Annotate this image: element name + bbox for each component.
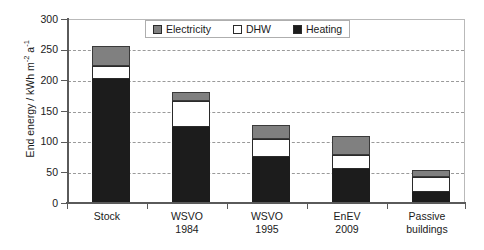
x-category-label-enev-2009: EnEV 2009	[302, 210, 392, 236]
x-category-line-1: Stock	[62, 210, 152, 223]
chart-legend: Electricity DHW Heating	[145, 20, 350, 38]
bar-segment-electricity[interactable]	[412, 170, 450, 177]
legend-swatch-dhw-icon	[233, 25, 242, 34]
bar-wsvo-1995[interactable]	[252, 125, 290, 202]
x-category-line-2: 2009	[302, 223, 392, 236]
y-axis-line	[67, 18, 69, 204]
legend-item-electricity[interactable]: Electricity	[153, 24, 211, 34]
y-tick-label-150: 150	[18, 106, 58, 116]
x-category-line-1: WSVO	[222, 210, 312, 223]
x-category-label-wsvo-1995: WSVO 1995	[222, 210, 312, 236]
x-category-line-2: 1984	[142, 223, 232, 236]
x-category-label-passive-buildings: Passive buildings	[382, 210, 472, 236]
x-axis-line	[66, 202, 466, 204]
x-category-line-1: EnEV	[302, 210, 392, 223]
legend-item-dhw[interactable]: DHW	[233, 24, 271, 34]
bar-segment-electricity[interactable]	[172, 92, 210, 101]
bar-segment-dhw[interactable]	[92, 66, 130, 79]
x-category-label-wsvo-1984: WSVO 1984	[142, 210, 232, 236]
x-category-label-stock: Stock	[62, 210, 152, 223]
legend-label-dhw: DHW	[246, 24, 271, 34]
legend-swatch-electricity-icon	[153, 25, 162, 34]
x-category-line-2: buildings	[382, 223, 472, 236]
y-axis-title-sup-area: -2	[22, 56, 31, 63]
bar-segment-heating[interactable]	[172, 127, 210, 202]
x-category-line-1: WSVO	[142, 210, 232, 223]
x-category-line-1: Passive	[382, 210, 472, 223]
bar-segment-heating[interactable]	[412, 192, 450, 202]
bar-segment-dhw[interactable]	[172, 101, 210, 127]
bar-segment-heating[interactable]	[252, 157, 290, 202]
y-tick-label-100: 100	[18, 136, 58, 146]
bar-enev-2009[interactable]	[332, 136, 370, 202]
bar-segment-heating[interactable]	[332, 169, 370, 202]
y-tick-label-200: 200	[18, 75, 58, 85]
bar-wsvo-1984[interactable]	[172, 92, 210, 202]
x-category-line-2: 1995	[222, 223, 312, 236]
y-tick-label-0: 0	[18, 198, 58, 208]
bar-segment-electricity[interactable]	[332, 136, 370, 155]
legend-label-heating: Heating	[306, 24, 342, 34]
bar-segment-dhw[interactable]	[412, 177, 450, 192]
y-tick-label-50: 50	[18, 167, 58, 177]
legend-swatch-heating-icon	[293, 25, 302, 34]
plot-area	[67, 19, 465, 203]
y-tick-label-300: 300	[18, 14, 58, 24]
chart-figure: End energy / kWh m-2 a-1 300 250 200 150…	[0, 0, 484, 250]
bar-passive-buildings[interactable]	[412, 170, 450, 202]
bar-segment-heating[interactable]	[92, 79, 130, 202]
bar-stock[interactable]	[92, 46, 130, 202]
legend-label-electricity: Electricity	[166, 24, 211, 34]
legend-item-heating[interactable]: Heating	[293, 24, 342, 34]
bar-segment-electricity[interactable]	[92, 46, 130, 66]
bar-segment-dhw[interactable]	[332, 155, 370, 169]
bar-segment-electricity[interactable]	[252, 125, 290, 139]
bar-segment-dhw[interactable]	[252, 139, 290, 157]
y-tick-label-250: 250	[18, 44, 58, 54]
